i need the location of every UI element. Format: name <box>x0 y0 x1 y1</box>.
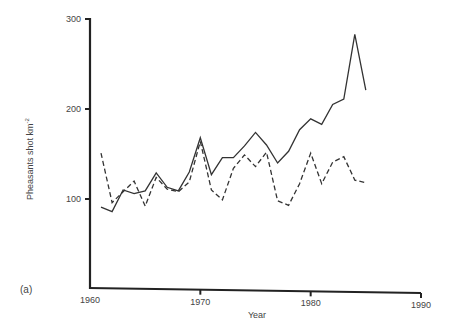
y-tick-label: 100 <box>66 194 81 204</box>
x-axis-title: Year <box>248 310 266 320</box>
y-tick-label: 200 <box>66 104 81 114</box>
x-axis-line <box>89 288 421 293</box>
x-tick-label: 1990 <box>411 300 431 310</box>
panel-label: (a) <box>20 284 32 295</box>
x-tick-label: 1980 <box>301 298 321 308</box>
x-tick-label: 1970 <box>190 297 210 307</box>
x-tick-label: 1960 <box>80 295 100 305</box>
y-axis-title: Pheasants shot km-2 <box>24 117 35 200</box>
series-line-dashed <box>101 141 366 206</box>
axes: 1002003001960197019801990 <box>66 14 431 310</box>
series-group <box>101 34 366 211</box>
series-line-solid <box>101 34 366 211</box>
chart-canvas: 1002003001960197019801990 Pheasants shot… <box>0 0 451 335</box>
y-tick-label: 300 <box>66 14 81 24</box>
